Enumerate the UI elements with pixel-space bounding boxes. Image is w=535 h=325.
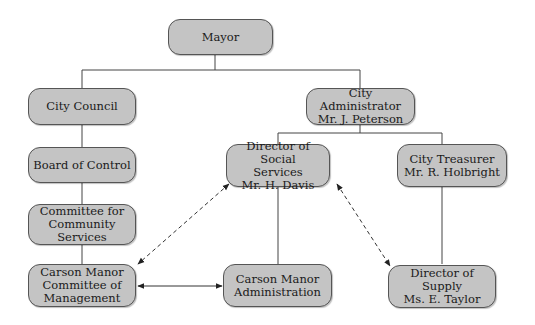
node-label: City Administrator xyxy=(307,87,414,113)
node-director-of-supply: Director of Supply Ms. E. Taylor xyxy=(388,265,496,308)
node-label: Board of Control xyxy=(33,159,130,172)
node-label: Carson Manor xyxy=(236,273,320,286)
node-label: Mr. J. Peterson xyxy=(318,113,404,126)
node-director-social-services: Director of Social Services Mr. H. Davis xyxy=(226,144,330,187)
node-label: Administration xyxy=(234,286,321,299)
node-label: City Council xyxy=(46,100,118,113)
node-label: Director of Supply xyxy=(389,267,495,293)
node-label: Management xyxy=(44,292,121,305)
node-city-treasurer: City Treasurer Mr. R. Holbright xyxy=(397,144,507,187)
node-city-administrator: City Administrator Mr. J. Peterson xyxy=(306,88,415,125)
node-board-of-control: Board of Control xyxy=(28,147,136,183)
node-label: Mayor xyxy=(202,31,240,44)
node-city-council: City Council xyxy=(28,88,136,125)
node-label: Director of Social xyxy=(227,140,329,166)
node-carson-manor-administration: Carson Manor Administration xyxy=(223,264,332,307)
node-label: Mr. H. Davis xyxy=(242,179,315,192)
node-label: Ms. E. Taylor xyxy=(404,293,481,306)
node-label: Community Services xyxy=(29,218,135,244)
node-mayor: Mayor xyxy=(168,19,273,55)
node-committee-community-services: Committee for Community Services xyxy=(28,204,136,245)
node-carson-manor-committee: Carson Manor Committee of Management xyxy=(28,264,136,307)
node-label: Services xyxy=(253,166,303,179)
node-label: Mr. R. Holbright xyxy=(404,166,500,179)
node-label: City Treasurer xyxy=(409,153,494,166)
